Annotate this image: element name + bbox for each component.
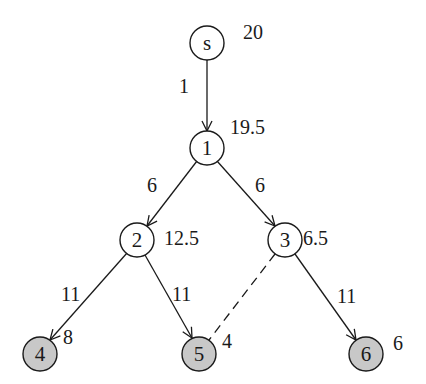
node-s: s [190,26,224,60]
edge-weight-1-3: 6 [255,174,265,196]
node-4: 4 [23,337,57,371]
node-2-label: 2 [132,228,143,252]
edge-1-3 [217,161,275,226]
tree-diagram: 1 6 6 11 11 11 s 1 2 3 4 5 6 20 19.5 12.… [0,0,426,384]
node-5: 5 [182,337,216,371]
node-1: 1 [190,131,224,165]
edge-3-5-dashed [209,254,275,340]
node-6: 6 [349,337,383,371]
node-3-label: 3 [280,228,291,252]
node-2: 2 [120,223,154,257]
node-3: 3 [268,223,302,257]
node-5-value: 4 [222,330,232,352]
node-s-value: 20 [243,21,263,43]
node-s-label: s [203,31,211,55]
edge-weight-2-4: 11 [61,283,80,305]
node-1-value: 19.5 [230,116,265,138]
edge-weight-2-5: 11 [172,283,191,305]
node-3-value: 6.5 [303,227,328,249]
node-6-label: 6 [361,342,372,366]
node-4-value: 8 [63,326,73,348]
edge-weight-3-6: 11 [337,285,356,307]
node-2-value: 12.5 [164,227,199,249]
node-6-value: 6 [393,332,403,354]
node-5-label: 5 [194,342,205,366]
edge-weight-s-1: 1 [179,75,189,97]
edge-weight-1-2: 6 [147,174,157,196]
node-4-label: 4 [35,342,46,366]
node-1-label: 1 [202,136,213,160]
